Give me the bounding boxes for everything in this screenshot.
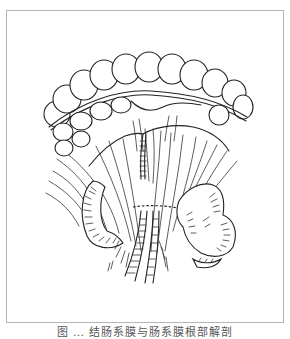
right-bowel-loop [177,184,235,268]
mesenteric-root [108,211,168,283]
incision-line [133,206,178,208]
vessel-arcade [89,126,229,179]
figure-caption: 图 … 结肠系膜与肠系膜根部解剖 [0,327,290,339]
left-bowel-loop [82,181,123,248]
figure-frame [6,10,284,323]
anatomy-illustration [7,11,285,324]
